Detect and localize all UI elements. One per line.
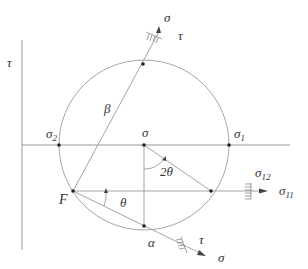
- alpha-point: [142, 224, 146, 228]
- top-point: [141, 62, 145, 66]
- sigma-center-label: σ: [142, 126, 148, 139]
- bottom-support-icon: [176, 237, 187, 253]
- stress-point: [209, 189, 213, 193]
- alpha-label: α: [148, 236, 155, 249]
- bottom-tau-label: τ: [199, 233, 204, 246]
- beta-label: β: [104, 102, 110, 115]
- radius-line: [144, 145, 211, 191]
- sigma1-label: σ1: [234, 127, 245, 143]
- bottom-sigma-label: σ: [218, 251, 224, 264]
- top-sigma-arrowhead: [156, 26, 161, 33]
- sigma11-label: σ11: [279, 184, 294, 200]
- center-point: [142, 143, 146, 147]
- beta-line: [73, 30, 160, 191]
- pole-f-label: F: [59, 193, 68, 207]
- sigma2-point: [57, 143, 61, 147]
- top-tau-label: τ: [178, 29, 183, 42]
- theta-arrowhead: [104, 188, 108, 193]
- tau-axis-label: τ: [7, 56, 12, 69]
- sigma11-arrowhead: [259, 189, 268, 194]
- sigma1-point: [227, 143, 231, 147]
- theta-arc: [104, 191, 106, 206]
- sigma12-label: σ12: [255, 166, 270, 182]
- top-sigma-label: σ: [164, 11, 170, 24]
- sigma2-label: σ2: [46, 127, 57, 143]
- theta-label: θ: [120, 196, 126, 209]
- pole-point-f: [71, 189, 75, 193]
- bottom-sigma-arrowhead: [197, 250, 206, 256]
- two-theta-label: 2θ: [160, 165, 173, 178]
